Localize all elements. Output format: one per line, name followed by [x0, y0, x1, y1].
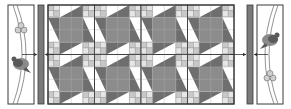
- four-patch-square: [129, 48, 135, 54]
- four-patch-square: [228, 42, 234, 48]
- four-patch-square: [182, 42, 188, 48]
- four-patch-square: [188, 42, 194, 48]
- four-patch-square: [228, 11, 234, 17]
- four-patch-square: [188, 48, 194, 54]
- four-patch-square: [100, 5, 106, 11]
- four-patch-square: [147, 60, 153, 66]
- four-patch-square: [100, 97, 106, 103]
- four-patch-square: [147, 42, 153, 48]
- four-patch-square: [228, 60, 234, 66]
- four-patch-square: [147, 92, 153, 98]
- four-patch-square: [89, 11, 95, 17]
- four-patch-square: [54, 48, 60, 54]
- four-patch-square: [95, 55, 101, 61]
- four-patch-square: [48, 60, 54, 66]
- four-patch-square: [228, 97, 234, 103]
- four-patch-square: [222, 92, 228, 98]
- four-patch-square: [48, 97, 54, 103]
- four-patch-square: [222, 11, 228, 17]
- four-patch-square: [141, 5, 147, 11]
- four-patch-square: [188, 11, 194, 17]
- quilt-block: [188, 5, 235, 55]
- four-patch-square: [147, 48, 153, 54]
- arrowhead-icon: [254, 53, 257, 57]
- four-patch-square: [95, 97, 101, 103]
- four-patch-square: [129, 92, 135, 98]
- four-patch-square: [100, 60, 106, 66]
- four-patch-square: [83, 92, 89, 98]
- four-patch-square: [100, 55, 106, 61]
- four-patch-square: [141, 11, 147, 17]
- four-patch-square: [147, 97, 153, 103]
- four-patch-square: [135, 11, 141, 17]
- four-patch-square: [89, 42, 95, 48]
- four-patch-square: [54, 60, 60, 66]
- four-patch-square: [188, 60, 194, 66]
- four-patch-square: [54, 55, 60, 61]
- four-patch-square: [176, 48, 182, 54]
- four-patch-square: [95, 60, 101, 66]
- four-patch-square: [193, 97, 199, 103]
- four-patch-square: [89, 97, 95, 103]
- four-patch-square: [141, 48, 147, 54]
- four-patch-square: [222, 5, 228, 11]
- arrowhead-icon: [34, 53, 37, 57]
- four-patch-square: [228, 5, 234, 11]
- four-patch-square: [54, 92, 60, 98]
- four-patch-square: [129, 97, 135, 103]
- four-patch-square: [176, 42, 182, 48]
- four-patch-square: [135, 92, 141, 98]
- four-patch-square: [141, 42, 147, 48]
- four-patch-square: [193, 55, 199, 61]
- four-patch-square: [176, 60, 182, 66]
- four-patch-square: [147, 55, 153, 61]
- four-patch-square: [129, 60, 135, 66]
- four-patch-square: [48, 42, 54, 48]
- four-patch-square: [129, 42, 135, 48]
- four-patch-square: [48, 11, 54, 17]
- four-patch-square: [182, 60, 188, 66]
- four-patch-square: [48, 48, 54, 54]
- arrowhead-icon: [243, 53, 246, 57]
- four-patch-square: [222, 48, 228, 54]
- four-patch-square: [129, 5, 135, 11]
- four-patch-square: [188, 97, 194, 103]
- four-patch-square: [83, 97, 89, 103]
- four-patch-square: [176, 55, 182, 61]
- four-patch-square: [141, 55, 147, 61]
- four-patch-square: [222, 42, 228, 48]
- four-patch-square: [193, 11, 199, 17]
- four-patch-square: [83, 60, 89, 66]
- four-patch-square: [48, 5, 54, 11]
- four-patch-square: [89, 60, 95, 66]
- four-patch-square: [176, 92, 182, 98]
- four-patch-square: [182, 97, 188, 103]
- four-patch-square: [176, 5, 182, 11]
- four-patch-square: [135, 42, 141, 48]
- four-patch-square: [141, 60, 147, 66]
- four-patch-square: [89, 55, 95, 61]
- center-panel: [48, 5, 234, 104]
- quilt-block: [95, 5, 142, 55]
- four-patch-square: [176, 97, 182, 103]
- four-patch-square: [100, 42, 106, 48]
- quilt-diagram: [0, 0, 291, 109]
- four-patch-square: [222, 55, 228, 61]
- four-patch-square: [182, 55, 188, 61]
- four-patch-square: [182, 5, 188, 11]
- four-patch-square: [193, 5, 199, 11]
- four-patch-square: [182, 92, 188, 98]
- quilt-block: [95, 55, 142, 105]
- four-patch-square: [100, 92, 106, 98]
- four-patch-square: [222, 97, 228, 103]
- four-patch-square: [54, 11, 60, 17]
- four-patch-square: [193, 48, 199, 54]
- four-patch-square: [135, 97, 141, 103]
- four-patch-square: [176, 11, 182, 17]
- four-patch-square: [89, 92, 95, 98]
- four-patch-square: [193, 60, 199, 66]
- four-patch-square: [129, 11, 135, 17]
- four-patch-square: [228, 55, 234, 61]
- sashing-strip-left: [38, 5, 44, 104]
- four-patch-square: [188, 5, 194, 11]
